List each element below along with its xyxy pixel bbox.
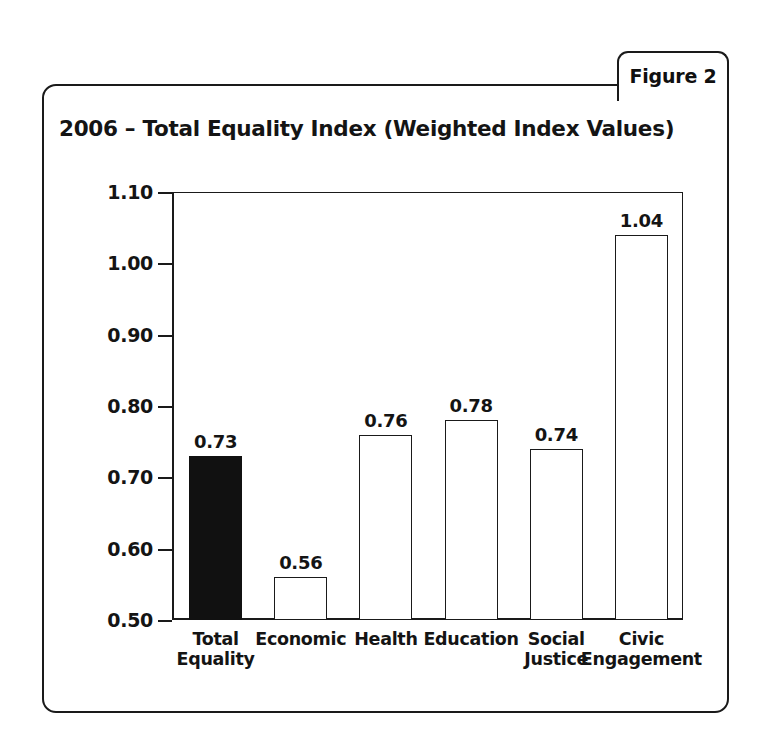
y-axis-tick-label: 0.90 [107,324,153,346]
plot-frame [172,192,683,620]
y-axis-tick-label: 0.50 [107,609,153,631]
y-axis-tick-label: 1.00 [107,252,153,274]
x-axis-category-label: Social Justice [524,629,588,670]
x-axis-category-label: Education [423,629,518,649]
x-axis-category-label: Economic [255,629,346,649]
bar-value-label: 0.76 [364,410,407,431]
y-axis-tick [158,620,172,622]
y-axis-tick [158,406,172,408]
y-axis-tick [158,192,172,194]
bar-value-label: 0.78 [449,395,492,416]
bar: 0.56 [274,577,327,620]
y-axis-tick [158,263,172,265]
chart-title: 2006 – Total Equality Index (Weighted In… [59,116,674,141]
x-axis-category-label: Total Equality [177,629,255,670]
y-axis-tick-label: 0.80 [107,395,153,417]
bar-value-label: 1.04 [620,210,663,231]
bar: 0.76 [359,435,412,620]
bar: 0.78 [445,420,498,620]
y-axis-tick-label: 0.70 [107,466,153,488]
bar: 0.73 [189,456,242,620]
x-axis-category-label: Health [354,629,417,649]
bar: 1.04 [615,235,668,620]
y-axis-tick [158,335,172,337]
figure-tab: Figure 2 [617,51,729,101]
bar-value-label: 0.73 [194,431,237,452]
bar: 0.74 [530,449,583,620]
y-axis-tick [158,477,172,479]
y-axis-tick [158,549,172,551]
y-axis-tick-label: 0.60 [107,538,153,560]
figure-tab-label: Figure 2 [629,65,716,87]
x-axis-category-label: Civic Engagement [581,629,702,670]
bar-value-label: 0.56 [279,552,322,573]
y-axis-tick-label: 1.10 [107,181,153,203]
bar-value-label: 0.74 [535,424,578,445]
plot-area: 1.101.000.900.800.700.600.50 Total Equal… [172,192,683,620]
